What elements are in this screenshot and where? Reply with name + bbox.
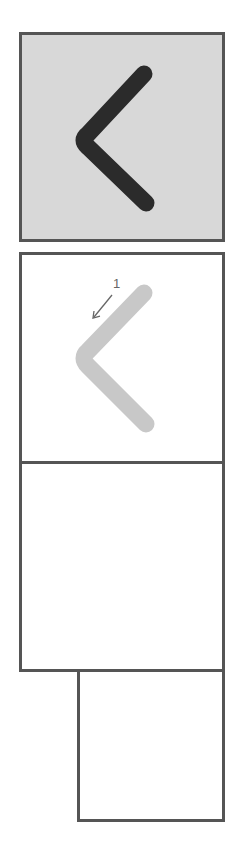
practice-box-1 bbox=[19, 461, 225, 672]
practice-box-2 bbox=[77, 669, 225, 822]
stroke-direction-arrow-icon bbox=[0, 0, 240, 480]
stroke-number-label: 1 bbox=[113, 277, 120, 291]
